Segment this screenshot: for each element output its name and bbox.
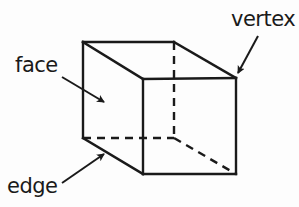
cube-edges xyxy=(83,42,236,174)
hidden-edges xyxy=(83,42,236,174)
hidden-edge-bottom-right-diagonal xyxy=(174,138,236,174)
edge-front-top xyxy=(143,78,236,79)
edge-label: edge xyxy=(7,176,58,197)
cube-diagram: face vertex edge xyxy=(0,0,299,207)
edge-arrow-icon xyxy=(62,154,104,183)
edge-bottom-left-diagonal xyxy=(83,138,143,174)
edge-top-right-diagonal xyxy=(174,42,236,78)
pointer-arrows xyxy=(62,36,258,183)
face-label: face xyxy=(15,55,58,76)
vertex-label: vertex xyxy=(231,9,295,30)
edge-top-left-diagonal xyxy=(83,42,143,79)
vertex-arrow-icon xyxy=(238,36,258,73)
